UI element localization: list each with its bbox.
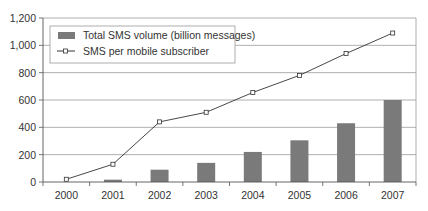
y-tick-label: 600 [18, 94, 36, 106]
line-marker [297, 73, 301, 77]
bar [337, 123, 355, 182]
x-tick-label: 2002 [148, 189, 172, 201]
y-tick-label: 200 [18, 149, 36, 161]
x-tick-label: 2005 [288, 189, 312, 201]
sms-chart: 02004006008001,0001,200 2000200120022003… [0, 0, 428, 211]
bar [151, 170, 169, 182]
bar [290, 140, 308, 182]
bar [384, 100, 402, 182]
legend-bar-label: Total SMS volume (billion messages) [83, 29, 255, 41]
x-tick-label: 2001 [101, 189, 125, 201]
bar [244, 152, 262, 182]
x-tick-label: 2004 [241, 189, 265, 201]
legend-bar-swatch-icon [58, 32, 75, 39]
legend-line-label: SMS per mobile subscriber [83, 45, 210, 57]
bar-series [104, 100, 402, 182]
line-marker [111, 162, 115, 166]
y-tick-label: 1,000 [10, 39, 36, 51]
y-axis: 02004006008001,0001,200 [10, 12, 43, 188]
line-marker [344, 52, 348, 56]
legend: Total SMS volume (billion messages) SMS … [50, 26, 255, 63]
line-marker [64, 177, 68, 181]
line-marker [251, 90, 255, 94]
y-tick-label: 800 [18, 67, 36, 79]
line-marker [391, 31, 395, 35]
x-axis: 20002001200220032004200520062007 [43, 182, 416, 201]
x-tick-label: 2003 [195, 189, 219, 201]
line-marker [204, 110, 208, 114]
y-tick-label: 0 [30, 176, 36, 188]
x-tick-label: 2007 [381, 189, 405, 201]
x-tick-label: 2000 [55, 189, 79, 201]
y-tick-label: 400 [18, 121, 36, 133]
x-tick-label: 2006 [334, 189, 358, 201]
bar [197, 163, 215, 182]
legend-line-marker-icon [64, 49, 68, 53]
y-tick-label: 1,200 [10, 12, 36, 24]
line-marker [158, 120, 162, 124]
